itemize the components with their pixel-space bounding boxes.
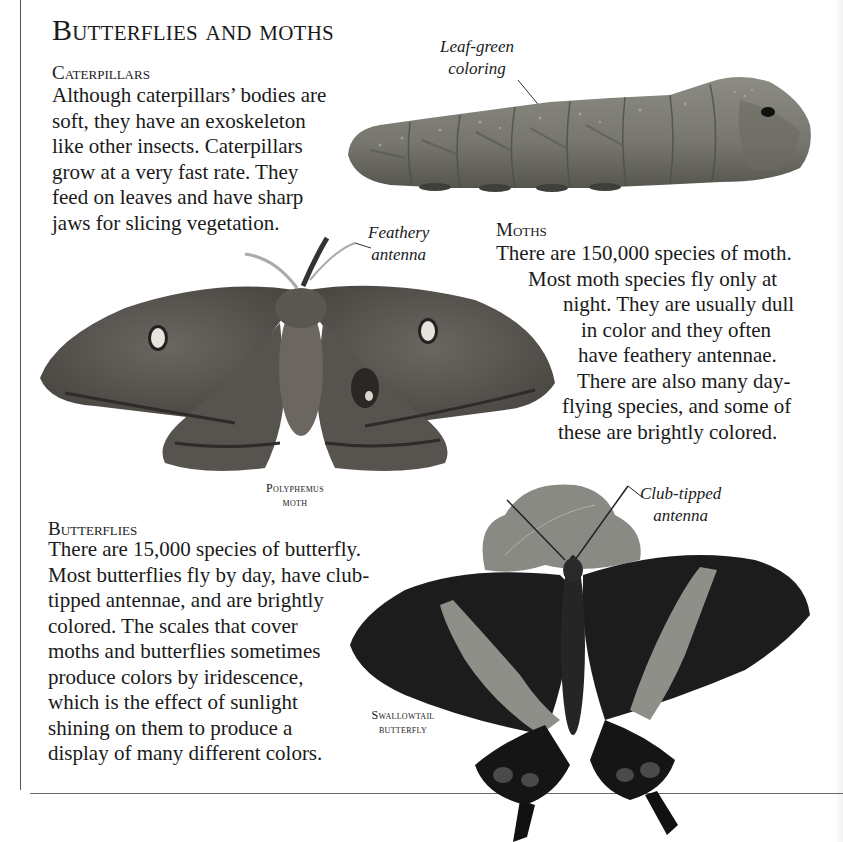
paragraph-line: Although caterpillars’ bodies are xyxy=(52,83,326,109)
paragraph-line: There are also many day- xyxy=(480,369,820,395)
page-gutter-shade xyxy=(835,0,843,842)
paragraph-line: shining on them to produce a xyxy=(48,716,369,742)
paragraph-line: tipped antennae, and are brightly xyxy=(48,588,369,614)
paragraph-line: colored. The scales that cover xyxy=(48,614,369,640)
label-line: Club-tipped xyxy=(640,483,721,505)
paragraph-line: There are 150,000 species of moth. xyxy=(480,241,820,267)
paragraph-line: Most butterflies fly by day, have club- xyxy=(48,563,369,589)
club-tipped-antenna-label: Club-tipped antenna xyxy=(640,483,721,527)
label-line: Leaf-green xyxy=(440,36,514,58)
left-margin-rule xyxy=(20,0,21,790)
label-line: antenna xyxy=(640,505,721,527)
caption-line: Polyphemus xyxy=(240,481,350,495)
paragraph-line: There are 15,000 species of butterfly. xyxy=(48,537,369,563)
caption-line: Swallowtail xyxy=(348,708,458,722)
paragraph-line: display of many different colors. xyxy=(48,741,369,767)
page-title: Butterflies and moths xyxy=(52,15,334,45)
paragraph-line: night. They are usually dull xyxy=(480,292,820,318)
paragraph-line: flying species, and some of xyxy=(480,394,820,420)
book-page: Butterflies and moths Caterpillars Altho… xyxy=(0,0,843,842)
caption-line: moth xyxy=(240,495,350,509)
paragraph-line: soft, they have an exoskeleton xyxy=(52,109,326,135)
caterpillars-heading: Caterpillars xyxy=(52,63,150,82)
paragraph-line: grow at a very fast rate. They xyxy=(52,160,326,186)
paragraph-line: Most moth species fly only at xyxy=(480,267,820,293)
polyphemus-moth-caption: Polyphemus moth xyxy=(240,481,350,509)
moths-heading: Moths xyxy=(496,220,547,239)
caterpillar-illustration xyxy=(340,70,820,200)
paragraph-line: moths and butterflies sometimes xyxy=(48,639,369,665)
paragraph-line: like other insects. Caterpillars xyxy=(52,134,326,160)
paragraph-line: in color and they often xyxy=(480,318,820,344)
paragraph-line: these are brightly colored. xyxy=(480,420,820,446)
swallowtail-butterfly-illustration xyxy=(345,475,815,842)
paragraph-line: have feathery antennae. xyxy=(480,343,820,369)
moths-paragraph: There are 150,000 species of moth. Most … xyxy=(480,241,820,445)
paragraph-line: produce colors by iridescence, xyxy=(48,665,369,691)
swallowtail-butterfly-caption: Swallowtail butterfly xyxy=(348,708,458,736)
butterflies-heading: Butterflies xyxy=(48,519,137,538)
caption-line: butterfly xyxy=(348,722,458,736)
caterpillars-paragraph: Although caterpillars’ bodies are soft, … xyxy=(52,83,326,236)
butterflies-paragraph: There are 15,000 species of butterfly. M… xyxy=(48,537,369,767)
paragraph-line: feed on leaves and have sharp xyxy=(52,185,326,211)
paragraph-line: which is the effect of sunlight xyxy=(48,690,369,716)
